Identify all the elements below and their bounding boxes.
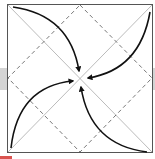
pinwheel-fold-diagram xyxy=(0,0,155,159)
accent-mark xyxy=(0,156,12,159)
caption xyxy=(40,155,140,159)
